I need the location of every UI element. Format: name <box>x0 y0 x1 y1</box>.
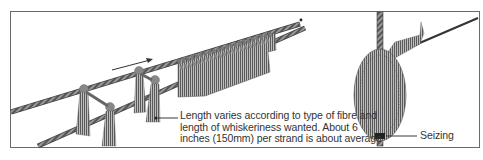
leader-dot <box>154 116 157 119</box>
incoming-strand <box>380 18 478 60</box>
rope-end <box>300 19 303 22</box>
seizing-label: Seizing <box>420 130 454 142</box>
fibre-length-caption: Length varies according to type of fibre… <box>180 110 382 145</box>
whisker-fringe <box>178 33 276 97</box>
caption-line-3: inches (150mm) per strand is about avera… <box>180 133 382 145</box>
caption-line-1: Length varies according to type of fibre… <box>180 110 382 122</box>
